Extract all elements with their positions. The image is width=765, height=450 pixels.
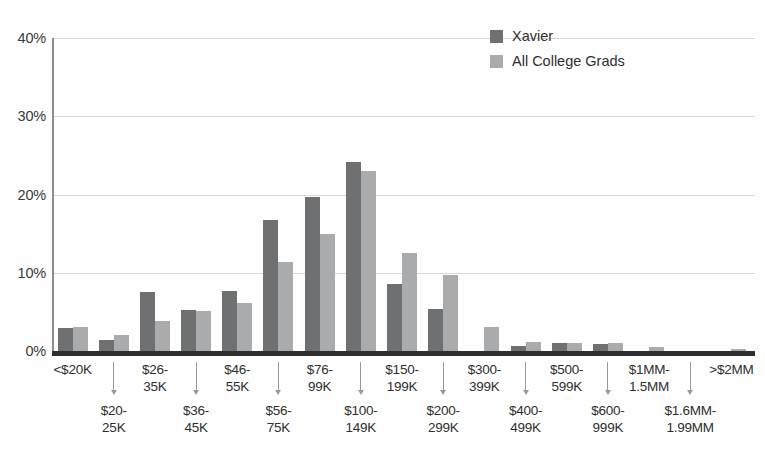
legend-item-all-college-grads[interactable]: All College Grads	[490, 51, 625, 71]
bar[interactable]	[222, 291, 237, 351]
x-axis-tick-label: $1.6MM- 1.99MM	[648, 403, 732, 436]
bar[interactable]	[237, 303, 252, 351]
bar[interactable]	[484, 327, 499, 351]
y-axis-tick-label: 30%	[0, 108, 46, 124]
x-axis-tick-label: >$2MM	[689, 362, 765, 379]
income-distribution-bar-chart: 40%30%20%10%0% Xavier All College Grads …	[0, 0, 765, 450]
bar[interactable]	[387, 284, 402, 351]
bar[interactable]	[552, 343, 567, 351]
bar[interactable]	[140, 292, 155, 351]
bar[interactable]	[99, 340, 114, 351]
x-axis-tick-label: $300- 399K	[442, 362, 526, 395]
bar[interactable]	[443, 275, 458, 351]
bar-group	[93, 38, 134, 351]
light-gray-swatch-icon	[490, 55, 503, 68]
x-axis-tick-label: $76- 99K	[278, 362, 362, 395]
bar-group	[546, 38, 587, 351]
x-axis-tick-label: $36- 45K	[154, 403, 238, 436]
bar-group	[505, 38, 546, 351]
bar[interactable]	[181, 310, 196, 351]
bar[interactable]	[428, 309, 443, 351]
x-axis-tick-label: $100- 149K	[319, 403, 403, 436]
x-axis-tick-label: $200- 299K	[401, 403, 485, 436]
bar-group	[628, 38, 669, 351]
bar-group	[381, 38, 422, 351]
bar-group	[299, 38, 340, 351]
bar-group	[587, 38, 628, 351]
bar[interactable]	[278, 262, 293, 351]
x-axis-tick-label: $600- 999K	[566, 403, 650, 436]
bar[interactable]	[58, 328, 73, 351]
x-axis-tick-label: $56- 75K	[236, 403, 320, 436]
legend-label: Xavier	[512, 28, 553, 44]
legend-label: All College Grads	[512, 53, 625, 69]
bar[interactable]	[361, 171, 376, 351]
bar[interactable]	[526, 342, 541, 351]
x-axis-tick-label: $46- 55K	[195, 362, 279, 395]
x-axis-category-labels: <$20K$20- 25K$26- 35K$36- 45K$46- 55K$56…	[0, 356, 765, 450]
bar[interactable]	[155, 321, 170, 351]
bar[interactable]	[402, 253, 417, 351]
bar-group	[423, 38, 464, 351]
dark-gray-swatch-icon	[490, 30, 503, 43]
bar[interactable]	[567, 343, 582, 351]
bar[interactable]	[263, 220, 278, 351]
bar-group	[52, 38, 93, 351]
legend-item-xavier[interactable]: Xavier	[490, 26, 625, 46]
plot-area	[52, 38, 752, 351]
bar[interactable]	[320, 234, 335, 351]
chart-legend: Xavier All College Grads	[490, 26, 625, 76]
bar-group	[258, 38, 299, 351]
x-axis-tick-label: $500- 599K	[525, 362, 609, 395]
bar[interactable]	[305, 197, 320, 351]
bar-group	[711, 38, 752, 351]
y-axis-tick-label: 20%	[0, 187, 46, 203]
bar-group	[134, 38, 175, 351]
y-axis-tick-label: 10%	[0, 265, 46, 281]
x-axis-tick-label: $1MM- 1.5MM	[607, 362, 691, 395]
bar[interactable]	[114, 335, 129, 351]
bar[interactable]	[346, 162, 361, 351]
bar[interactable]	[593, 344, 608, 351]
x-axis-tick-label: <$20K	[31, 362, 115, 379]
x-axis-tick-label: $20- 25K	[72, 403, 156, 436]
bar-group	[464, 38, 505, 351]
bar-group	[217, 38, 258, 351]
x-axis-tick-label: $400- 499K	[484, 403, 568, 436]
bar-group	[340, 38, 381, 351]
bar-group	[670, 38, 711, 351]
x-axis-tick-label: $150- 199K	[360, 362, 444, 395]
bar[interactable]	[608, 343, 623, 351]
bar[interactable]	[73, 327, 88, 351]
y-axis-tick-label: 40%	[0, 30, 46, 46]
bar-group	[176, 38, 217, 351]
bar[interactable]	[196, 311, 211, 351]
x-axis-tick-label: $26- 35K	[113, 362, 197, 395]
